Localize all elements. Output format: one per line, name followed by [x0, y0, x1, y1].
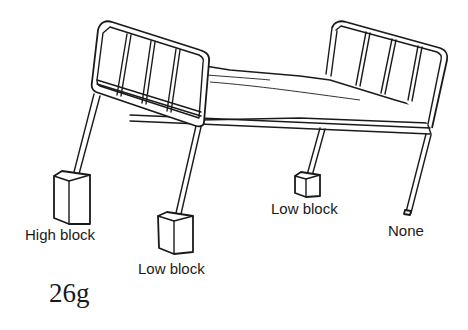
back-headboard [326, 21, 447, 128]
label-high-block: High block [25, 226, 95, 243]
leg-front-left [74, 94, 100, 174]
low-block-front [158, 212, 193, 254]
leg-back-right [404, 134, 431, 215]
label-none: None [388, 222, 424, 239]
high-block [54, 171, 90, 224]
front-headboard [92, 21, 210, 126]
low-block-back [295, 172, 320, 197]
leg-front-right [176, 126, 201, 214]
figure-label: 26g [49, 278, 90, 309]
label-low-block-front: Low block [138, 260, 205, 277]
leg-back-left [307, 128, 325, 176]
label-low-block-back: Low block [271, 200, 338, 217]
